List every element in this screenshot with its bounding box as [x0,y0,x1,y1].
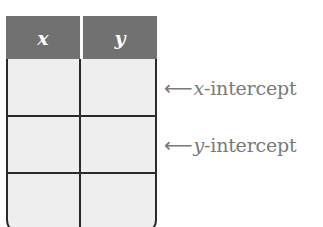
xy-table: x y [6,16,157,227]
cell-y-row-3[interactable] [81,174,155,227]
table-row [8,174,155,227]
table-row [8,59,155,117]
x-intercept-annotation: ⟵ x -intercept [164,76,296,100]
cell-x-row-2[interactable] [8,117,81,172]
table-body [6,59,157,227]
cell-y-row-2[interactable] [81,117,155,172]
header-cell-x: x [6,16,80,59]
left-arrow-icon: ⟵ [164,76,192,100]
header-cell-y: y [83,16,157,59]
cell-x-row-1[interactable] [8,59,81,115]
cell-y-row-1[interactable] [81,59,155,115]
annotation-label: -intercept [204,77,296,99]
annotation-label: -intercept [204,134,296,156]
left-arrow-icon: ⟵ [164,133,192,157]
annotation-variable: x [193,77,204,99]
table-row [8,117,155,174]
table-header: x y [6,16,157,59]
annotation-variable: y [193,134,204,156]
cell-x-row-3[interactable] [8,174,81,227]
y-intercept-annotation: ⟵ y -intercept [164,133,296,157]
